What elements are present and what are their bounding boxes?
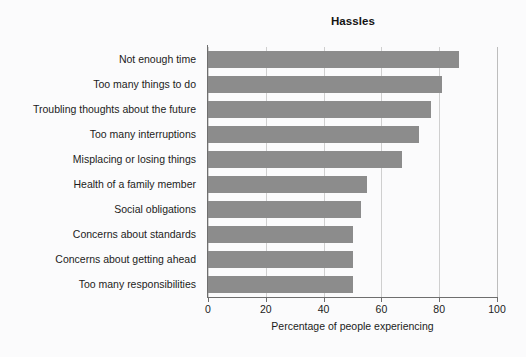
bar-row bbox=[208, 197, 497, 222]
bar bbox=[208, 276, 353, 293]
bar bbox=[208, 51, 459, 68]
bar bbox=[208, 226, 353, 243]
category-label-text: Too many interruptions bbox=[90, 128, 202, 140]
plot-area bbox=[208, 47, 497, 297]
bar bbox=[208, 76, 442, 93]
bar-row bbox=[208, 222, 497, 247]
bar-row bbox=[208, 122, 497, 147]
category-label: Social obligations bbox=[0, 197, 202, 222]
bar-row bbox=[208, 97, 497, 122]
category-label-text: Too many responsibilities bbox=[79, 278, 202, 290]
x-axis-title: Percentage of people experiencing bbox=[208, 320, 497, 332]
bar bbox=[208, 101, 431, 118]
category-label: Health of a family member bbox=[0, 172, 202, 197]
category-label-text: Not enough time bbox=[119, 53, 202, 65]
bar-row bbox=[208, 272, 497, 297]
x-tick-20 bbox=[266, 297, 267, 302]
x-axis-line bbox=[207, 297, 498, 298]
x-tick-label-80: 80 bbox=[433, 303, 445, 315]
x-tick-40 bbox=[324, 297, 325, 302]
gridline-100 bbox=[497, 47, 498, 297]
x-tick-80 bbox=[439, 297, 440, 302]
x-tick-100 bbox=[497, 297, 498, 302]
x-tick-60 bbox=[381, 297, 382, 302]
chart-title: Hassles bbox=[208, 15, 498, 27]
bar-row bbox=[208, 147, 497, 172]
category-label: Too many interruptions bbox=[0, 122, 202, 147]
category-label-text: Troubling thoughts about the future bbox=[33, 103, 202, 115]
x-tick-label-100: 100 bbox=[488, 303, 506, 315]
x-tick-label-40: 40 bbox=[318, 303, 330, 315]
bar-row bbox=[208, 47, 497, 72]
bar bbox=[208, 201, 361, 218]
category-label-text: Too many things to do bbox=[93, 78, 202, 90]
category-label-text: Health of a family member bbox=[73, 178, 202, 190]
bar-row bbox=[208, 172, 497, 197]
x-tick-label-0: 0 bbox=[205, 303, 211, 315]
bar bbox=[208, 126, 419, 143]
category-label: Misplacing or losing things bbox=[0, 147, 202, 172]
category-label: Troubling thoughts about the future bbox=[0, 97, 202, 122]
x-tick-0 bbox=[208, 297, 209, 302]
category-label: Too many responsibilities bbox=[0, 272, 202, 297]
category-label-text: Concerns about standards bbox=[73, 228, 202, 240]
category-label-text: Social obligations bbox=[114, 203, 202, 215]
category-label: Concerns about standards bbox=[0, 222, 202, 247]
x-tick-label-60: 60 bbox=[376, 303, 388, 315]
category-label: Concerns about getting ahead bbox=[0, 247, 202, 272]
bar bbox=[208, 151, 402, 168]
category-label-text: Concerns about getting ahead bbox=[55, 253, 202, 265]
category-label: Not enough time bbox=[0, 47, 202, 72]
bar bbox=[208, 251, 353, 268]
category-label-text: Misplacing or losing things bbox=[73, 153, 202, 165]
x-tick-label-20: 20 bbox=[260, 303, 272, 315]
bar-row bbox=[208, 72, 497, 97]
bar bbox=[208, 176, 367, 193]
hassles-bar-chart-figure: Hassles Not enough timeToo many things t… bbox=[0, 0, 526, 357]
category-label: Too many things to do bbox=[0, 72, 202, 97]
bar-row bbox=[208, 247, 497, 272]
